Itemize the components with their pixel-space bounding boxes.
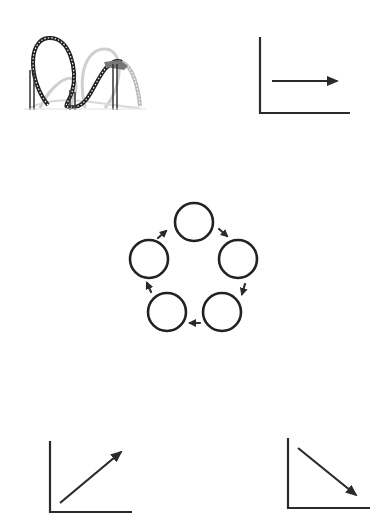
cycle-arrow-icon <box>242 284 245 294</box>
diagram-canvas <box>0 0 388 524</box>
flat-trend-graph <box>260 37 350 113</box>
cycle-arrow-icon <box>219 229 227 236</box>
cycle-node-4 <box>148 293 186 331</box>
up-arrow-icon <box>60 452 121 503</box>
falling-trend-graph <box>288 438 370 508</box>
roller-coaster-icon <box>24 38 146 110</box>
rising-trend-graph <box>50 441 132 512</box>
cycle-diagram <box>130 203 257 331</box>
cycle-arrow-icon <box>158 231 166 238</box>
cycle-node-1 <box>175 203 213 241</box>
cycle-arrow-icon <box>147 283 151 292</box>
cycle-node-2 <box>219 240 257 278</box>
graph-axes <box>260 37 350 113</box>
cycle-node-3 <box>203 293 241 331</box>
down-arrow-icon <box>298 448 356 495</box>
cycle-node-5 <box>130 240 168 278</box>
